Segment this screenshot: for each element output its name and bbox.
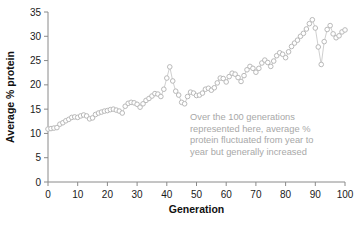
x-tick-label: 40	[161, 189, 173, 200]
data-point-marker	[215, 81, 220, 86]
data-point-marker	[313, 26, 318, 31]
data-point-marker	[182, 102, 187, 107]
data-point-marker	[304, 27, 309, 32]
x-tick-label: 70	[250, 189, 262, 200]
x-tick-label: 30	[132, 189, 144, 200]
x-tick-label: 0	[45, 189, 51, 200]
y-tick-label: 30	[30, 31, 42, 42]
y-tick-label: 25	[30, 55, 42, 66]
chart-annotation-line: protein fluctuated from year to	[190, 135, 314, 145]
chart-annotation-line: Over the 100 generations	[190, 112, 295, 122]
data-point-marker	[159, 94, 164, 99]
data-point-marker	[239, 79, 244, 84]
data-point-marker	[271, 59, 276, 64]
x-tick-label: 100	[337, 189, 354, 200]
data-point-marker	[176, 93, 181, 98]
chart-annotation-line: year but generally increased	[190, 147, 307, 157]
data-point-marker	[242, 73, 247, 78]
data-point-marker	[328, 23, 333, 28]
data-point-marker	[224, 80, 229, 85]
x-tick-label: 60	[221, 189, 233, 200]
x-tick-label: 10	[72, 189, 84, 200]
data-point-marker	[301, 31, 306, 36]
x-tick-label: 90	[310, 189, 322, 200]
data-point-marker	[310, 17, 315, 22]
data-point-marker	[170, 79, 175, 84]
x-axis-title: Generation	[169, 203, 224, 215]
data-point-marker	[322, 39, 327, 44]
data-point-marker	[343, 28, 348, 33]
x-tick-label: 20	[102, 189, 114, 200]
data-point-marker	[268, 64, 273, 69]
data-point-marker	[167, 65, 172, 70]
x-tick-label: 80	[280, 189, 292, 200]
chart-annotation-line: represented here, average %	[190, 124, 310, 134]
x-tick-label: 50	[191, 189, 203, 200]
y-tick-label: 5	[35, 152, 41, 163]
y-tick-label: 10	[30, 128, 42, 139]
chart-figure: 051015202530350102030405060708090100Gene…	[0, 0, 362, 225]
y-axis-title: Average % protein	[4, 51, 16, 143]
data-point-marker	[283, 55, 288, 60]
chart-canvas: 051015202530350102030405060708090100Gene…	[0, 0, 362, 225]
y-tick-label: 0	[35, 177, 41, 188]
data-point-marker	[316, 45, 321, 50]
data-point-marker	[185, 94, 190, 99]
y-tick-label: 15	[30, 104, 42, 115]
y-tick-label: 20	[30, 79, 42, 90]
data-point-marker	[162, 87, 167, 92]
data-point-marker	[286, 50, 291, 55]
data-point-marker	[120, 111, 125, 116]
data-point-marker	[319, 62, 324, 67]
y-tick-label: 35	[30, 7, 42, 18]
data-point-marker	[257, 66, 262, 71]
data-point-marker	[212, 85, 217, 90]
data-point-marker	[165, 76, 170, 81]
